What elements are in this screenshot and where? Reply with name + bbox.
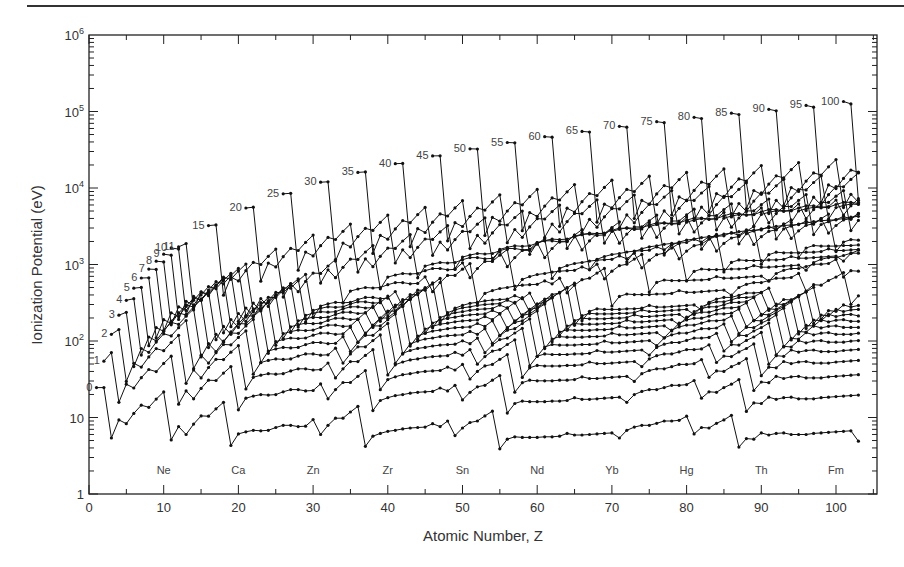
x-tick-label: 50	[455, 500, 469, 515]
charge-label-2: 2	[101, 327, 107, 339]
x-tick-label: 80	[679, 500, 693, 515]
y-tick-label: 10	[70, 411, 84, 426]
element-label-zn: Zn	[307, 464, 320, 476]
x-tick-label: 20	[231, 500, 245, 515]
charge-label-3: 3	[109, 308, 115, 320]
charge-label-45: 45	[416, 149, 428, 161]
element-label-fm: Fm	[828, 464, 844, 476]
charge-label-100: 100	[821, 95, 839, 107]
curves-layer	[95, 100, 860, 451]
ionization-potential-chart: 0123456789101115202530354045505560657075…	[0, 0, 904, 567]
charge-label-5: 5	[124, 281, 130, 293]
element-label-zr: Zr	[383, 464, 394, 476]
charge-label-20: 20	[230, 201, 242, 213]
y-axis-title: Ionization Potential (eV)	[28, 185, 45, 344]
charge-label-15: 15	[192, 219, 204, 231]
x-tick-label: 0	[85, 500, 92, 515]
y-tick-label: 105	[65, 103, 84, 120]
charge-label-4: 4	[116, 293, 122, 305]
x-tick-label: 40	[381, 500, 395, 515]
isoionic-curve-90	[767, 108, 860, 209]
element-label-yb: Yb	[605, 464, 618, 476]
y-tick-label: 106	[65, 26, 84, 43]
isoionic-curve-45	[431, 154, 860, 253]
y-tick-label: 102	[65, 332, 84, 349]
charge-label-7: 7	[139, 262, 145, 274]
charge-label-11: 11	[163, 240, 174, 252]
charge-label-55: 55	[491, 136, 503, 148]
y-tick-label: 104	[65, 179, 84, 196]
charge-label-8: 8	[146, 254, 152, 266]
charge-label-50: 50	[454, 142, 466, 154]
charge-label-95: 95	[790, 98, 802, 110]
x-tick-label: 90	[754, 500, 768, 515]
charge-label-65: 65	[566, 124, 578, 136]
y-tick-labels: 110102103104105106	[65, 26, 84, 502]
charge-label-85: 85	[715, 106, 727, 118]
charge-label-90: 90	[753, 102, 765, 114]
element-label-ca: Ca	[231, 464, 246, 476]
element-label-nd: Nd	[530, 464, 544, 476]
charge-label-80: 80	[678, 110, 690, 122]
x-axis-title: Atomic Number, Z	[423, 527, 543, 544]
charge-label-1: 1	[94, 354, 100, 366]
charge-label-60: 60	[528, 130, 540, 142]
charge-label-25: 25	[267, 187, 279, 199]
charge-label-30: 30	[304, 175, 316, 187]
x-tick-label: 100	[825, 500, 847, 515]
isoionic-curve-0	[95, 386, 860, 450]
x-tick-labels: 0102030405060708090100	[85, 500, 846, 515]
x-tick-label: 60	[530, 500, 544, 515]
charge-label-6: 6	[131, 271, 137, 283]
element-label-th: Th	[755, 464, 768, 476]
charge-label-75: 75	[640, 115, 652, 127]
x-tick-label: 70	[605, 500, 619, 515]
element-labels-layer: NeCaZnZrSnNdYbHgThFm	[157, 464, 844, 476]
x-tick-label: 30	[306, 500, 320, 515]
element-label-hg: Hg	[680, 464, 694, 476]
y-tick-label: 103	[65, 256, 84, 273]
charge-label-70: 70	[603, 119, 615, 131]
charge-label-40: 40	[379, 157, 391, 169]
element-label-sn: Sn	[456, 464, 469, 476]
charge-label-35: 35	[342, 165, 354, 177]
element-label-ne: Ne	[157, 464, 171, 476]
x-tick-label: 10	[156, 500, 170, 515]
y-tick-label: 1	[77, 487, 84, 502]
